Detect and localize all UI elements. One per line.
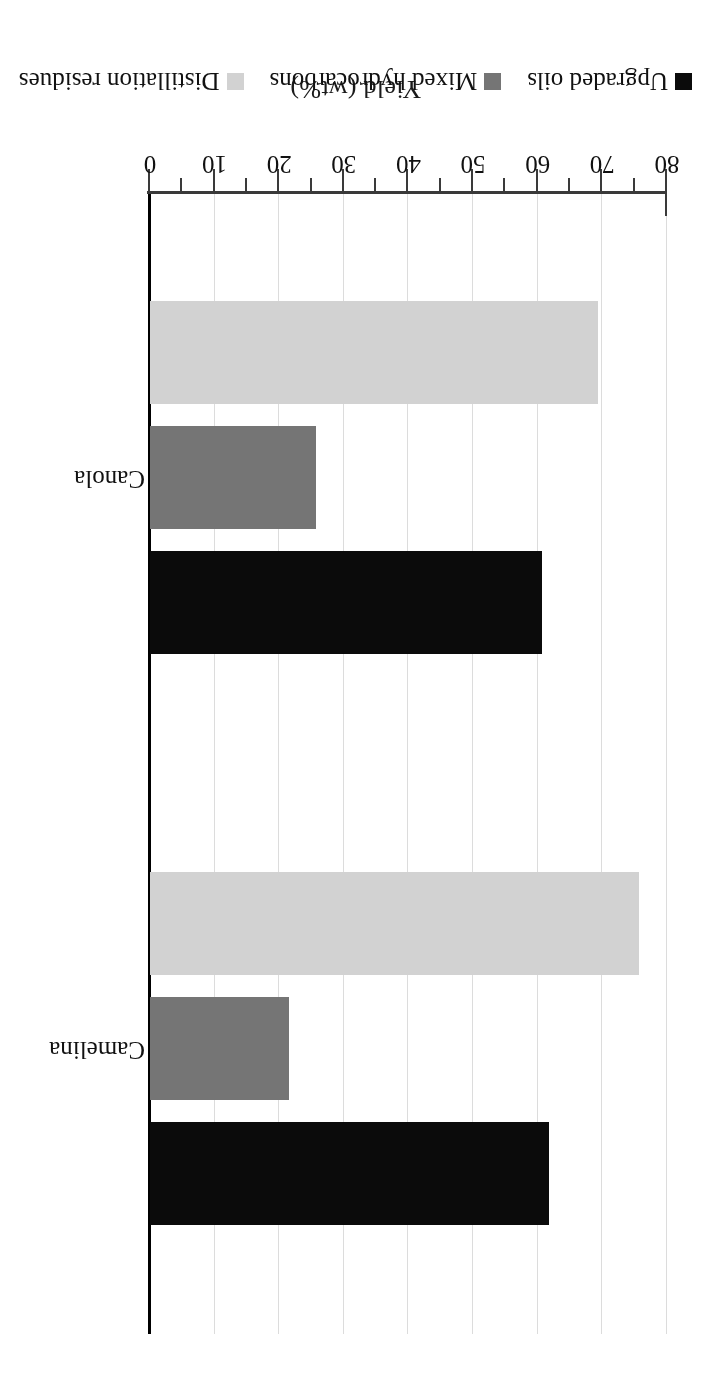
bar-chart-figure: 01020304050607080 Yield (wt%) CamelinaCa…	[0, 0, 711, 1394]
legend-swatch-icon	[675, 73, 692, 90]
gridline-80	[666, 192, 667, 1334]
category-label-canola: Canola	[0, 466, 145, 494]
bar-camelina-mixed-hydrocarbons	[150, 997, 289, 1100]
legend-item-1[interactable]: Mixed hydrocarbons	[270, 69, 502, 94]
tick-5	[180, 178, 182, 191]
tick-65	[568, 178, 570, 191]
legend-item-2[interactable]: Distillation residues	[19, 69, 244, 94]
tick-35	[374, 178, 376, 191]
legend-swatch-icon	[227, 73, 244, 90]
value-axis-tick-labels: 01020304050607080	[0, 118, 711, 178]
figure-rotation-wrapper: 01020304050607080 Yield (wt%) CamelinaCa…	[0, 0, 711, 1394]
tick-25	[310, 178, 312, 191]
tick-label-80: 80	[637, 150, 697, 178]
bar-camelina-distillation-residues	[150, 872, 639, 975]
tick-label-10: 10	[185, 150, 245, 178]
legend-label: Distillation residues	[19, 69, 220, 94]
category-label-camelina: Camelina	[0, 1037, 145, 1065]
tick-55	[503, 178, 505, 191]
bar-camelina-upgraded-oils	[150, 1122, 549, 1225]
legend-item-0[interactable]: Upgraded oils	[527, 69, 692, 94]
tick-label-50: 50	[443, 150, 503, 178]
legend-label: Upgraded oils	[527, 69, 668, 94]
bar-canola-upgraded-oils	[150, 551, 542, 654]
chart-legend: Upgraded oilsMixed hydrocarbonsDistillat…	[0, 69, 711, 94]
tick-label-20: 20	[249, 150, 309, 178]
tick-45	[439, 178, 441, 191]
value-axis-line	[147, 191, 667, 194]
tick-15	[245, 178, 247, 191]
tick-75	[633, 178, 635, 191]
bar-canola-distillation-residues	[150, 301, 598, 404]
tick-label-70: 70	[572, 150, 632, 178]
value-axis-end-cap	[665, 191, 667, 216]
tick-label-40: 40	[379, 150, 439, 178]
gridline-70	[601, 192, 602, 1334]
bar-canola-mixed-hydrocarbons	[150, 426, 316, 529]
legend-label: Mixed hydrocarbons	[270, 69, 478, 94]
tick-label-0: 0	[120, 150, 180, 178]
tick-label-30: 30	[314, 150, 374, 178]
plot-area	[150, 192, 667, 1334]
legend-swatch-icon	[484, 73, 501, 90]
tick-label-60: 60	[508, 150, 568, 178]
